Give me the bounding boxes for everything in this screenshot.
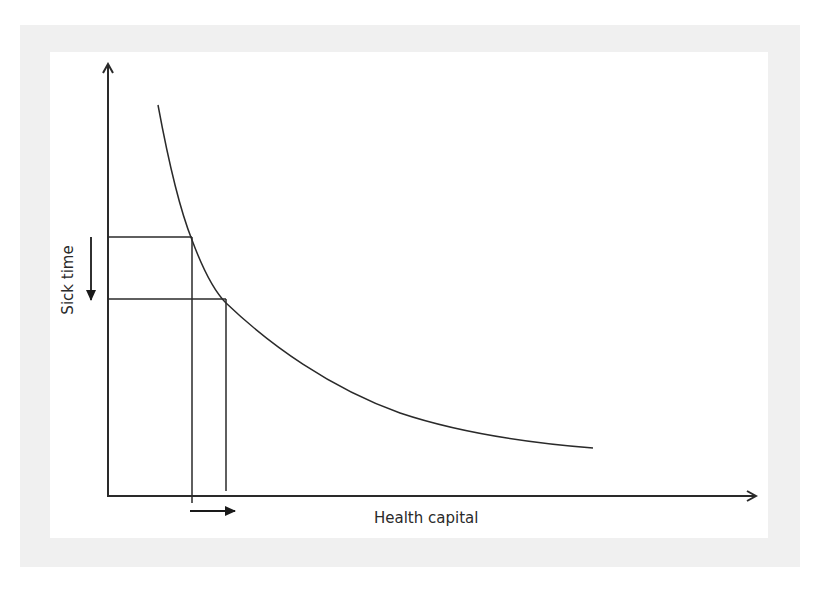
diagram-svg — [0, 0, 820, 592]
y-axis-label: Sick time — [59, 245, 77, 314]
x-axis-label: Health capital — [374, 509, 478, 527]
sick-time-curve — [158, 105, 593, 448]
